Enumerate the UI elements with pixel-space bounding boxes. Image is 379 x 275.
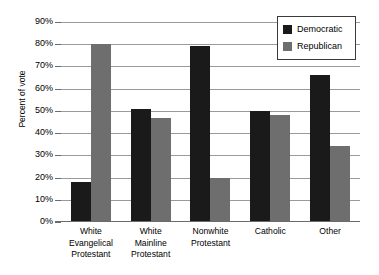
legend-label-republican: Republican: [297, 42, 342, 51]
bar-group: [121, 22, 181, 222]
chart-legend: Democratic Republican: [277, 16, 356, 60]
y-tick-label: 70%: [19, 61, 53, 70]
bar-republican: [91, 44, 111, 222]
y-tick-label: 30%: [19, 150, 53, 159]
bar-chart: Percent of vote 90%80%70%60%50%40%30%20%…: [0, 0, 379, 275]
bar-democratic: [310, 75, 330, 222]
y-tick-label: 20%: [19, 173, 53, 182]
bar-democratic: [250, 111, 270, 222]
y-tick-label: 50%: [19, 106, 53, 115]
bar-republican: [330, 146, 350, 222]
x-axis-labels: WhiteEvangelicalProtestantWhiteMainlineP…: [61, 226, 360, 261]
bar-democratic: [71, 182, 91, 222]
bar-republican: [210, 178, 230, 222]
legend-label-democratic: Democratic: [297, 25, 343, 34]
bar-democratic: [131, 109, 151, 222]
legend-swatch-democratic: [283, 25, 292, 34]
y-tick-label: 60%: [19, 84, 53, 93]
x-axis-label: NonwhiteProtestant: [181, 226, 241, 261]
bar-republican: [270, 115, 290, 222]
x-axis-line: [55, 221, 360, 222]
y-tick-mark: [55, 222, 61, 223]
legend-item-democratic: Democratic: [283, 21, 351, 38]
y-tick-label: 90%: [19, 17, 53, 26]
x-axis-label: Catholic: [240, 226, 300, 261]
y-tick-label: 0%: [19, 217, 53, 226]
bar-group: [181, 22, 241, 222]
legend-item-republican: Republican: [283, 38, 351, 55]
x-axis-label: WhiteEvangelicalProtestant: [61, 226, 121, 261]
y-tick-label: 10%: [19, 195, 53, 204]
bar-democratic: [190, 46, 210, 222]
bar-group: [61, 22, 121, 222]
legend-swatch-republican: [283, 42, 292, 51]
bar-republican: [151, 118, 171, 222]
x-axis-label: Other: [300, 226, 360, 261]
x-axis-label: WhiteMainlineProtestant: [121, 226, 181, 261]
y-tick-label: 80%: [19, 39, 53, 48]
y-tick-label: 40%: [19, 128, 53, 137]
